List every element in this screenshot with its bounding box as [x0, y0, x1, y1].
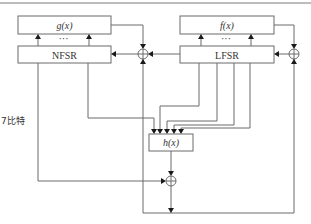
arrow-left-icon: [274, 51, 279, 57]
arrow-down-icon: [157, 129, 163, 134]
diagram-canvas: g(x) NFSR ··· f(x) LFSR ···: [0, 0, 311, 224]
lfsr-block: LFSR: [180, 46, 274, 63]
nfsr-block: NFSR: [18, 46, 111, 63]
h-label: h(x): [163, 137, 180, 149]
arrow-down-icon: [140, 44, 146, 49]
output-xor: [166, 176, 176, 186]
arrow-left-icon: [111, 51, 116, 57]
arrow-right-icon: [161, 178, 166, 184]
f-function-block: f(x): [180, 16, 274, 34]
arrow-down-icon: [164, 129, 170, 134]
g-label: g(x): [56, 20, 73, 32]
arrow-up-icon: [198, 34, 204, 39]
lfsr-feedback-xor: [289, 49, 299, 59]
arrow-up-icon: [35, 34, 41, 39]
h-function-block: h(x): [149, 134, 193, 151]
arrow-up-icon: [86, 34, 92, 39]
arrow-left-icon: [148, 51, 153, 57]
ellipsis-right: ···: [221, 33, 231, 44]
arrow-down-icon: [291, 44, 297, 49]
nfsr-feedback-xor: [138, 49, 148, 59]
g-function-block: g(x): [18, 16, 111, 34]
arrow-down-icon: [178, 129, 184, 134]
arrow-down-icon: [151, 129, 157, 134]
arrow-down-icon: [168, 171, 174, 176]
nfsr-label: NFSR: [52, 50, 77, 61]
seven-bit-label: 7比特: [1, 115, 25, 126]
ellipsis-left: ···: [59, 33, 69, 44]
arrow-up-icon: [140, 59, 146, 64]
arrow-down-icon: [168, 208, 174, 213]
arrow-down-icon: [171, 129, 177, 134]
lfsr-label: LFSR: [215, 50, 239, 61]
f-label: f(x): [220, 20, 235, 32]
arrow-up-icon: [248, 34, 254, 39]
arrow-up-icon: [291, 59, 297, 64]
